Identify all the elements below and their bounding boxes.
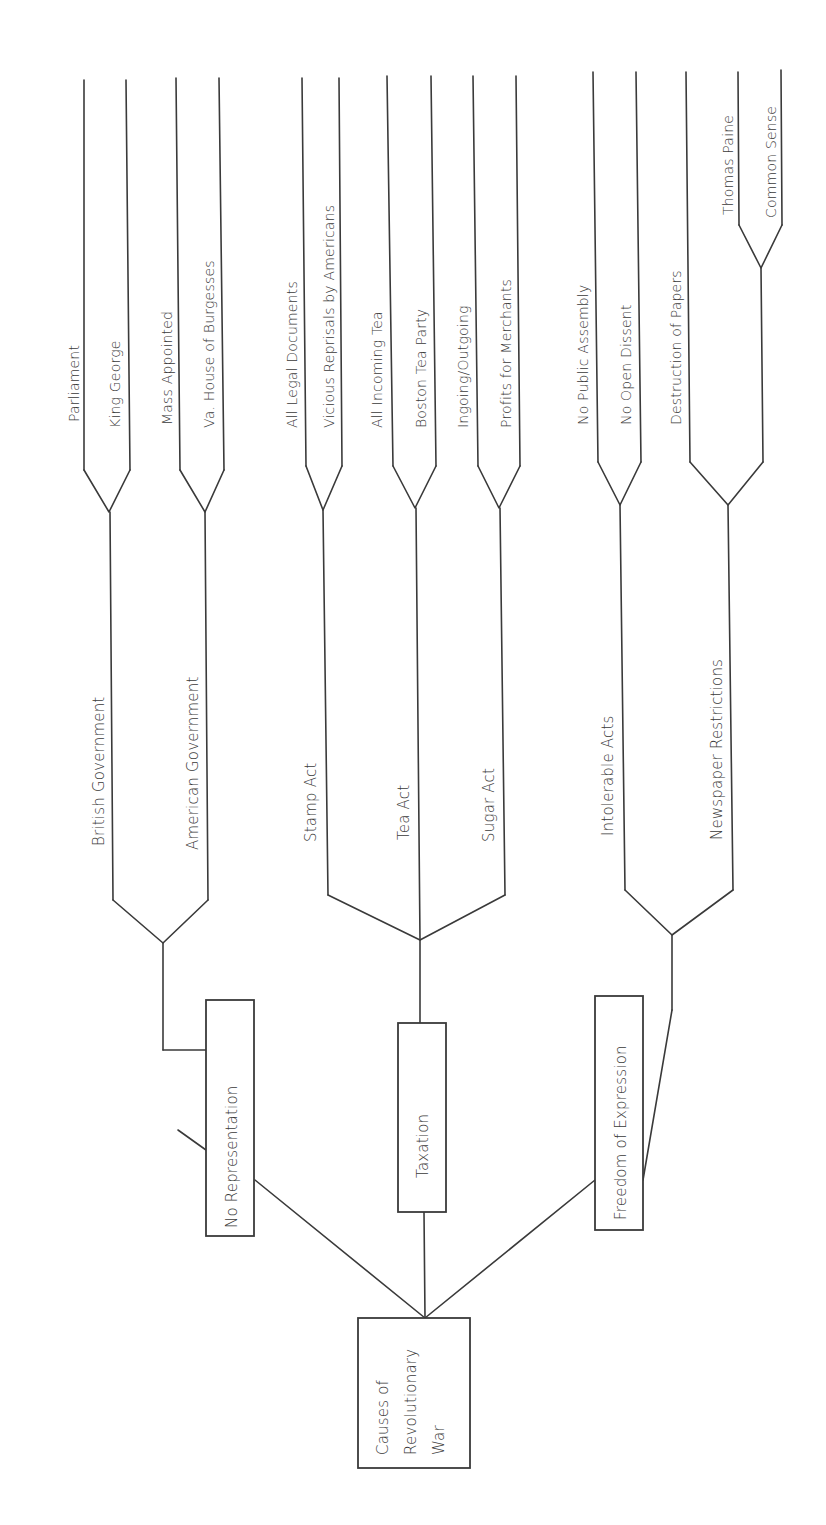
subtree-no-representation — [84, 78, 224, 1150]
diagram-canvas: Causes of Revolutionary War No Represent… — [0, 0, 826, 1525]
leaf-label-destruction-of-papers: Destruction of Papers — [668, 270, 684, 425]
branch-label-sugar-act: Sugar Act — [480, 768, 498, 842]
svg-text:War: War — [430, 1425, 448, 1455]
leaf-label-no-open-dissent: No Open Dissent — [618, 304, 634, 425]
leaf-label-profits-for-merchants: Profits for Merchants — [498, 279, 514, 428]
category-label-no-representation: No Representation — [223, 1086, 241, 1229]
leaf-label-all-incoming-tea: All Incoming Tea — [369, 311, 385, 428]
leaf-label-common-sense: Common Sense — [763, 106, 779, 218]
leaf-label-vicious-reprisals: Vicious Reprisals by Americans — [321, 205, 337, 428]
leaf-label-va-house-of-burgesses: Va. House of Burgesses — [201, 260, 217, 428]
branch-label-stamp-act: Stamp Act — [302, 763, 320, 842]
leaf-label-boston-tea-party: Boston Tea Party — [413, 309, 429, 428]
leaf-label-king-george: King George — [107, 340, 123, 428]
leaf-label-thomas-paine: Thomas Paine — [720, 115, 736, 215]
branch-label-british-government: British Government — [90, 697, 108, 846]
leaf-label-no-public-assembly: No Public Assembly — [575, 285, 591, 425]
category-label-freedom-of-expression: Freedom of Expression — [612, 1045, 630, 1220]
leaf-label-mass-appointed: Mass Appointed — [159, 311, 175, 425]
root-line-1: Causes of — [374, 1379, 392, 1455]
svg-text:Revolutionary: Revolutionary — [402, 1349, 420, 1455]
leaf-label-parliament: Parliament — [66, 345, 82, 422]
branch-label-intolerable-acts: Intolerable Acts — [599, 715, 617, 836]
branch-label-tea-act: Tea Act — [395, 785, 413, 840]
leaf-label-all-legal-documents: All Legal Documents — [284, 281, 300, 428]
branch-label-american-government: American Government — [184, 677, 202, 851]
category-label-taxation: Taxation — [414, 1114, 432, 1178]
root-line-3: War — [430, 1425, 448, 1455]
root-line-2: Revolutionary — [402, 1349, 420, 1455]
tree-diagram: Causes of Revolutionary War No Represent… — [0, 0, 826, 1525]
leaf-label-ingoing-outgoing: Ingoing/Outgoing — [455, 305, 471, 428]
svg-text:Causes of: Causes of — [374, 1379, 392, 1455]
branch-label-newspaper-restrictions: Newspaper Restrictions — [708, 659, 726, 840]
